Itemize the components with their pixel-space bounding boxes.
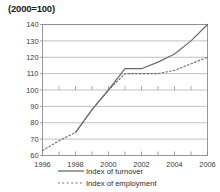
chart-container: (2000=100) 60708090100110120130140 19961… [0, 0, 220, 192]
x-axis-tick-label: 2004 [166, 160, 182, 169]
y-axis-tick-labels: 60708090100110120130140 [26, 20, 42, 160]
series-index-of-employment [43, 57, 208, 150]
y-axis-tick-label: 110 [27, 69, 39, 78]
chart-legend: Index of turnoverIndex of employment [58, 167, 157, 188]
series-line [43, 57, 208, 150]
legend-item-label: Index of turnover [86, 167, 143, 176]
legend-item-label: Index of employment [86, 179, 157, 188]
y-axis-tick-label: 80 [30, 118, 38, 127]
y-axis-tick-label: 130 [26, 37, 38, 46]
gridlines [43, 25, 208, 140]
y-axis-tick-label: 70 [30, 135, 38, 144]
x-axis-tick-label: 1998 [67, 160, 83, 169]
y-axis-tick-label: 140 [26, 20, 38, 29]
chart-plot: 60708090100110120130140 1996199820002002… [0, 0, 220, 192]
x-axis-tick-label: 1996 [34, 160, 50, 169]
x-axis-ticks [43, 86, 208, 156]
x-axis-tick-label: 2006 [199, 160, 215, 169]
y-axis-tick-label: 100 [26, 86, 38, 95]
y-axis-tick-label: 90 [30, 102, 38, 111]
y-axis-tick-label: 120 [26, 53, 38, 62]
